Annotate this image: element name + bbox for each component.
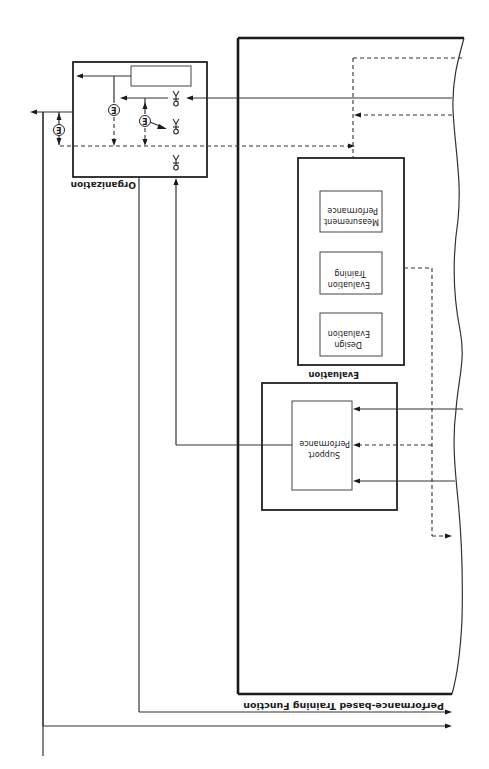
evaluation-design-box: Evaluation Design — [320, 313, 382, 356]
organization-label: Organization — [71, 180, 136, 190]
training-function-frame — [238, 38, 464, 694]
e-marker-icon: E — [140, 116, 151, 127]
evaluation-label: Evaluation — [308, 370, 359, 380]
svg-text:Design: Design — [334, 340, 362, 349]
organization-output-box — [131, 66, 191, 86]
e-marker-icon: E — [109, 105, 120, 116]
svg-text:Measurement: Measurement — [324, 217, 379, 226]
svg-text:Performance: Performance — [327, 206, 378, 215]
evaluation-feedback-flow — [404, 268, 452, 539]
training-function-diagram: Performance-based Training Function Orga… — [0, 0, 489, 769]
performance-support-box: Performance Support — [292, 401, 352, 490]
svg-text:E: E — [142, 116, 147, 125]
e-marker-icon: E — [54, 125, 65, 136]
performance-measurement-box: Performance Measurement — [320, 191, 382, 232]
svg-text:Support: Support — [308, 450, 340, 459]
svg-text:E: E — [56, 125, 61, 134]
training-function-label: Performance-based Training Function — [243, 701, 444, 712]
training-evaluation-box: Training Evaluation — [320, 252, 382, 294]
svg-text:Performance: Performance — [299, 439, 350, 448]
svg-text:E: E — [111, 105, 116, 114]
svg-text:Evaluation: Evaluation — [328, 280, 370, 289]
svg-text:Evaluation: Evaluation — [328, 329, 370, 338]
svg-text:Training: Training — [334, 269, 367, 278]
